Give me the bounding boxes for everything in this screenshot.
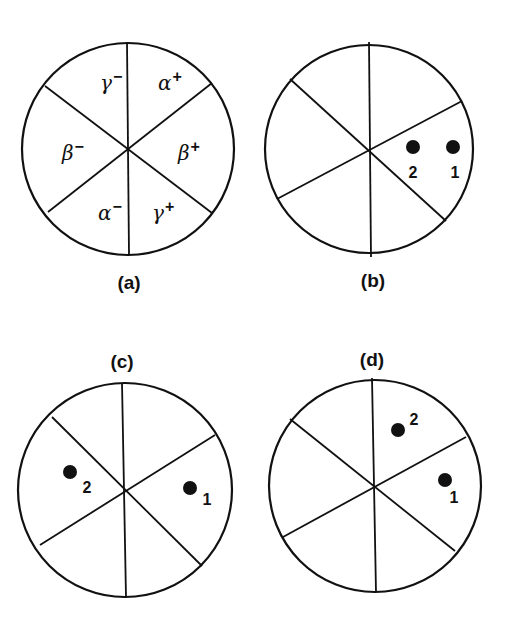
panel-b: 21(b) xyxy=(265,42,473,291)
point-marker-1 xyxy=(446,140,460,154)
panel-caption: (b) xyxy=(361,270,385,291)
point-label: 2 xyxy=(83,479,92,496)
point-label: 1 xyxy=(450,489,459,506)
point-marker-2 xyxy=(391,423,405,437)
panel-a: γ−α+β−β+α−γ+(a) xyxy=(22,42,234,293)
panel-d: 21(d) xyxy=(269,349,481,592)
point-marker-1 xyxy=(438,473,452,487)
panel-caption: (c) xyxy=(110,351,133,372)
sector-label: β− xyxy=(61,138,84,165)
point-marker-2 xyxy=(63,465,77,479)
sector-label: α− xyxy=(98,198,122,225)
point-marker-1 xyxy=(183,481,197,495)
sector-divider-line xyxy=(52,417,202,566)
panel-c: 21(c) xyxy=(18,351,232,597)
point-label: 1 xyxy=(203,491,212,508)
sector-diagram-figure: γ−α+β−β+α−γ+(a)21(b)21(c)21(d) xyxy=(0,0,506,625)
sector-label: β+ xyxy=(177,138,200,165)
point-marker-2 xyxy=(406,140,420,154)
point-label: 2 xyxy=(410,411,419,428)
sector-label: γ+ xyxy=(152,198,174,225)
sector-label: γ− xyxy=(100,68,122,95)
panel-caption: (d) xyxy=(360,349,384,370)
point-label: 1 xyxy=(451,164,460,181)
point-label: 2 xyxy=(409,164,418,181)
sector-label: α+ xyxy=(158,68,182,95)
panel-caption: (a) xyxy=(117,272,140,293)
